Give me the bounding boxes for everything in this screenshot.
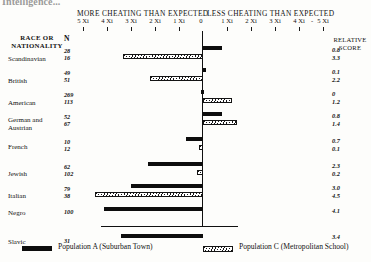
bar-c-jewish [197,170,203,175]
row-label-italian: Italian [8,192,64,200]
row-label-french: French [8,143,64,151]
bar-a-scandinavian [203,46,222,50]
score-a-british: 0.1 [332,68,356,75]
tick-label-right-5: 5 Xi [312,17,334,24]
tick-label-left-1: 1 Xi [168,17,190,24]
score-a-negro: 4.1 [332,207,356,214]
row-label-scandinavian: Scandinavian [8,55,64,63]
tick-label-right-3: 3 Xi [264,17,286,24]
score-c-french: 0.1 [332,145,356,152]
bar-a-slavic [121,234,203,238]
bar-a-jewish [148,162,203,166]
tick-label-left-2: 2 Xi [144,17,166,24]
row-label-british: British [8,77,64,85]
score-c-scandinavian: 3.3 [332,54,356,61]
bar-a-american [201,90,204,94]
tick-dash-separator: - [311,17,313,24]
row-n-c-scandinavian: 16 [64,54,80,61]
bar-a-italian [131,184,203,188]
bar-c-german-austrian [203,120,237,125]
race-or-nationality-header: RACE OR NATIONALITY [8,34,66,50]
chart-figure: Intelligence... MORE CHEATING THAN EXPEC… [0,0,371,262]
row-n-a-italian: 79 [64,185,80,192]
row-n-a-jewish: 62 [64,163,80,170]
row-n-c-british: 51 [64,76,80,83]
tick-label-left-4: 4 Xi [96,17,118,24]
score-a-slavic: 3.4 [332,233,356,240]
tick-mark-right-4 [299,27,300,31]
bar-c-french [199,145,203,150]
row-n-a-negro: 100 [64,208,80,215]
row-n-c-italian: 38 [64,192,80,199]
score-c-jewish: 0.2 [332,170,356,177]
tick-mark-left-4 [107,27,108,31]
row-n-c-jewish: 102 [64,170,80,177]
row-n-a-british: 49 [64,69,80,76]
tick-mark-left-2 [155,27,156,31]
score-c-italian: 4.5 [332,192,356,199]
chart-legend: Population A (Suburban Town) Population … [0,242,371,260]
row-label-german-austrian: German and Austrian [8,116,64,132]
tick-mark-left-5 [83,27,84,31]
n-column-header: N [64,34,69,43]
clipped-top-caption: Intelligence... [2,0,60,7]
row-n-a-german-austrian: 52 [64,113,80,120]
tick-mark-right-1 [227,27,228,31]
tick-label-right-4: 4 Xi [288,17,310,24]
bar-c-british [150,76,203,81]
score-a-italian: 3.0 [332,184,356,191]
row-n-a-scandinavian: 28 [64,47,80,54]
bar-a-french [186,137,203,141]
row-n-a-american: 269 [64,91,80,98]
row-label-jewish: Jewish [8,170,64,178]
tick-label-right-2: 2 Xi [240,17,262,24]
tick-label-left-5: 5 Xi [72,17,94,24]
score-c-german-austrian: 1.4 [332,120,356,127]
score-c-british: 2.2 [332,76,356,83]
bar-c-italian [95,192,203,197]
score-a-scandinavian: 0.8 [332,46,356,53]
score-c-american: 1.2 [332,98,356,105]
bar-a-german-austrian [203,112,222,116]
tick-mark-right-3 [275,27,276,31]
bar-a-british [203,68,206,72]
tick-label-zero-left: 0 [190,17,212,24]
row-n-c-french: 12 [64,145,80,152]
score-a-german-austrian: 0.8 [332,112,356,119]
bar-a-negro [104,207,203,211]
legend-label-population-a: Population A (Suburban Town) [58,242,152,251]
score-a-american: 0 [332,90,356,97]
tick-mark-left-1 [179,27,180,31]
row-n-c-american: 113 [64,98,80,105]
tick-mark-right-5 [323,27,324,31]
axis-baseline [101,226,238,227]
score-a-jewish: 2.3 [332,162,356,169]
tick-mark-left-3 [131,27,132,31]
score-a-french: 0.7 [332,137,356,144]
tick-label-right-1: 1 Xi [216,17,238,24]
legend-label-population-c: Population C (Metropolitan School) [239,242,348,251]
bar-c-american [203,98,232,103]
row-n-a-french: 10 [64,138,80,145]
tick-label-left-3: 3 Xi [120,17,142,24]
row-label-negro: Negro [8,209,64,217]
row-label-american: American [8,99,64,107]
tick-mark-right-2 [251,27,252,31]
row-n-c-german-austrian: 67 [64,120,80,127]
legend-swatch-population-c [203,246,233,252]
bar-c-scandinavian [123,54,203,59]
zero-axis-line [202,31,203,227]
legend-swatch-population-a [22,246,52,251]
